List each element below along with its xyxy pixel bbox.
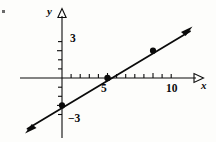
y-axis-label: y	[47, 6, 52, 17]
graph-figure: y x 3 −3 5 10	[0, 0, 216, 142]
data-point	[150, 48, 156, 54]
y-tick-label-negative-3: −3	[68, 113, 80, 125]
y-axis	[58, 9, 66, 139]
x-tick-label-10: 10	[166, 83, 178, 95]
data-point	[59, 102, 65, 108]
coordinate-plane	[0, 0, 216, 142]
y-tick-label-3: 3	[70, 33, 76, 45]
data-point	[104, 75, 110, 81]
x-tick-label-5: 5	[101, 83, 107, 95]
x-axis-label: x	[201, 80, 207, 91]
x-axis-ticks	[71, 73, 171, 78]
